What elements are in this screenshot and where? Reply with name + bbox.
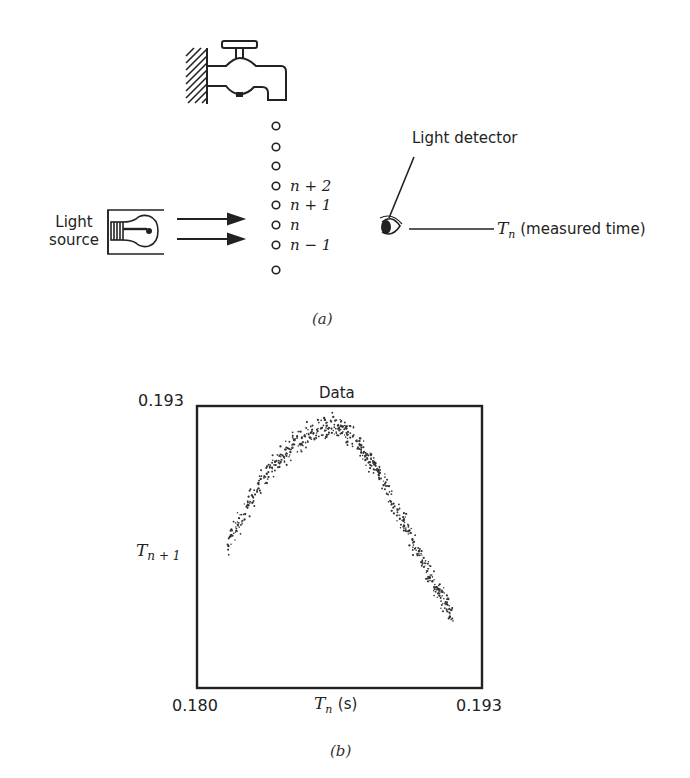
scatter-point: [364, 459, 366, 461]
scatter-point: [435, 591, 437, 593]
scatter-point: [369, 467, 371, 469]
scatter-point: [408, 530, 410, 532]
scatter-point: [431, 574, 433, 576]
scatter-point: [233, 533, 235, 535]
scatter-point: [428, 568, 430, 570]
scatter-point: [230, 535, 232, 537]
scatter-point: [292, 431, 294, 433]
scatter-point: [278, 466, 280, 468]
scatter-point: [241, 523, 243, 525]
plot-title: Data: [319, 384, 355, 402]
scatter-point: [297, 431, 299, 433]
scatter-point: [344, 425, 346, 427]
scatter-point: [427, 580, 429, 582]
scatter-point: [446, 601, 448, 603]
scatter-point: [302, 445, 304, 447]
scatter-point: [317, 430, 319, 432]
scatter-point: [356, 440, 358, 442]
scatter-point: [365, 452, 367, 454]
scatter-point: [405, 529, 407, 531]
faucet-icon: [207, 41, 286, 100]
scatter-point: [366, 457, 368, 459]
scatter-point: [310, 426, 312, 428]
scatter-point: [403, 529, 405, 531]
scatter-point: [323, 425, 325, 427]
scatter-point: [371, 465, 373, 467]
scatter-point: [418, 551, 420, 553]
scatter-point: [385, 481, 387, 483]
scatter-point: [267, 471, 269, 473]
scatter-point: [379, 469, 381, 471]
scatter-point: [444, 592, 445, 593]
plot-frame: [197, 406, 482, 688]
scatter-point: [261, 475, 263, 477]
scatter-point: [318, 422, 320, 424]
scatter-point: [358, 440, 360, 442]
scatter-point: [253, 500, 255, 502]
scatter-point: [311, 429, 313, 431]
scatter-point: [271, 471, 273, 473]
scatter-point: [290, 459, 292, 461]
scatter-point: [420, 550, 422, 552]
scatter-point: [274, 461, 276, 463]
scatter-point: [241, 514, 243, 516]
scatter-point: [398, 504, 400, 506]
scatter-point: [407, 523, 408, 524]
scatter-point: [304, 434, 306, 436]
scatter-point: [279, 445, 281, 447]
scatter-point: [405, 527, 406, 528]
scatter-point: [425, 578, 427, 580]
scatter-point: [408, 544, 410, 546]
scatter-point: [447, 604, 449, 606]
light-source-label-line1: Light: [45, 213, 103, 231]
scatter-point: [253, 505, 255, 507]
scatter-point: [403, 518, 405, 520]
scatter-point: [325, 427, 327, 429]
scatter-point: [349, 425, 351, 427]
light-bulb-icon: [108, 210, 164, 254]
scatter-point: [347, 434, 349, 436]
scatter-point: [433, 579, 434, 580]
scatter-point: [433, 590, 435, 592]
scatter-point: [349, 432, 351, 434]
scatter-point: [286, 453, 288, 455]
scatter-point: [293, 439, 295, 441]
scatter-point: [296, 435, 298, 437]
scatter-point: [297, 445, 298, 446]
scatter-point: [292, 436, 294, 438]
scatter-point: [442, 595, 444, 597]
x-axis-symbol: T: [314, 693, 325, 713]
scatter-point: [408, 526, 410, 528]
scatter-point: [381, 488, 383, 490]
measured-time-symbol: T: [497, 218, 508, 238]
scatter-point: [379, 471, 381, 473]
scatter-point: [307, 429, 309, 431]
scatter-point: [449, 613, 451, 615]
scatter-point: [331, 432, 333, 434]
scatter-point: [266, 473, 268, 475]
scatter-point: [403, 512, 405, 514]
scatter-point: [440, 607, 442, 609]
scatter-point: [253, 489, 255, 491]
scatter-point: [239, 514, 240, 515]
scatter-point: [405, 530, 407, 532]
drop-column: [272, 122, 280, 274]
scatter-point: [264, 476, 266, 478]
scatter-point: [265, 482, 267, 484]
scatter-point: [365, 465, 367, 467]
scatter-point: [272, 454, 274, 456]
scatter-point: [370, 454, 372, 456]
scatter-point: [370, 457, 372, 459]
scatter-point: [425, 562, 427, 564]
scatter-point: [429, 580, 431, 582]
scatter-point: [364, 456, 366, 458]
scatter-point: [337, 424, 339, 426]
scatter-point: [391, 510, 393, 512]
x-max-tick: 0.193: [456, 696, 502, 715]
x-axis-subscript: n: [325, 703, 332, 716]
scatter-point: [384, 473, 385, 474]
scatter-point: [404, 522, 406, 524]
scatter-point: [362, 455, 364, 457]
caption-a: (a): [312, 310, 333, 328]
scatter-point: [279, 461, 281, 463]
